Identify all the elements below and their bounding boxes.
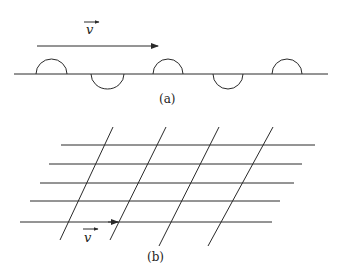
velocity-label-b: v xyxy=(84,230,92,245)
caption-a: (a) xyxy=(159,92,176,106)
bump-down-2 xyxy=(213,74,243,89)
figure-a: v (a) xyxy=(14,22,328,106)
velocity-label-a: v xyxy=(86,22,94,37)
diagram-canvas: v (a) v (b) xyxy=(0,0,337,274)
caption-b: (b) xyxy=(147,250,164,264)
figure-b: v (b) xyxy=(20,127,315,264)
bump-down-1 xyxy=(91,74,124,89)
bump-up-1 xyxy=(36,59,67,74)
bump-up-3 xyxy=(272,59,302,74)
bump-up-2 xyxy=(153,59,183,74)
